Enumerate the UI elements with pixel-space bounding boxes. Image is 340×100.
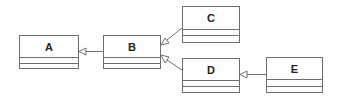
triangle-arrowhead-icon (161, 55, 169, 63)
attributes-divider (20, 57, 78, 58)
methods-divider (183, 86, 239, 87)
class-box-d[interactable]: D (182, 58, 240, 93)
attributes-divider (267, 79, 322, 80)
class-box-e[interactable]: E (266, 57, 323, 93)
class-name-a: A (20, 36, 78, 57)
attributes-divider (104, 57, 160, 58)
class-box-c[interactable]: C (182, 6, 240, 43)
class-name-d: D (183, 59, 239, 80)
class-name-c: C (183, 7, 239, 29)
class-name-b: B (104, 36, 160, 57)
methods-divider (20, 63, 78, 64)
edge-d-to-b (167, 60, 182, 70)
uml-class-diagram: A B C D E (0, 0, 340, 100)
edge-c-to-b (167, 28, 182, 40)
triangle-arrowhead-icon (79, 48, 86, 55)
triangle-arrowhead-icon (240, 71, 247, 78)
methods-divider (267, 86, 322, 87)
class-box-b[interactable]: B (103, 35, 161, 69)
attributes-divider (183, 80, 239, 81)
class-box-a[interactable]: A (19, 35, 79, 69)
attributes-divider (183, 29, 239, 30)
class-name-e: E (267, 58, 322, 79)
methods-divider (104, 63, 160, 64)
methods-divider (183, 35, 239, 36)
